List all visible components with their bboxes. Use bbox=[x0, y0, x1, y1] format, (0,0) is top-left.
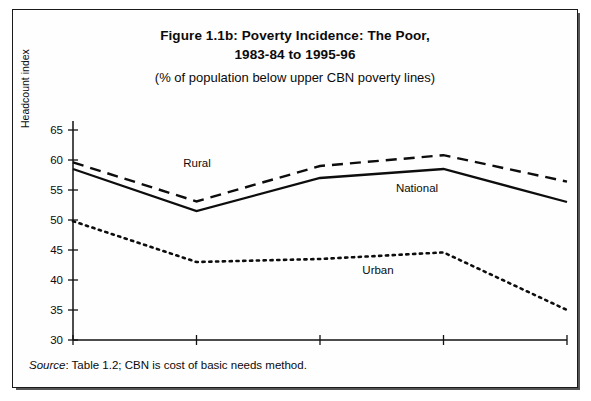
series-label-urban: Urban bbox=[362, 264, 393, 276]
y-tick-label: 30 bbox=[50, 334, 63, 346]
source-note: Source: Table 1.2; CBN is cost of basic … bbox=[29, 359, 307, 371]
figure-frame: Figure 1.1b: Poverty Incidence: The Poor… bbox=[12, 9, 578, 388]
y-tick-label: 45 bbox=[50, 244, 63, 256]
series-line-national bbox=[73, 169, 567, 211]
y-tick-label: 35 bbox=[50, 304, 63, 316]
y-tick-label: 50 bbox=[50, 214, 63, 226]
figure-title-line-2: 1983-84 to 1995-96 bbox=[13, 45, 577, 64]
series-label-national: National bbox=[396, 182, 438, 194]
x-axis: 1983-841985-861988-891991-921995-96 bbox=[52, 335, 579, 350]
figure-title-line-1: Figure 1.1b: Poverty Incidence: The Poor… bbox=[13, 26, 577, 45]
line-chart: 3035404550556065 1983-841985-861988-8919… bbox=[13, 110, 579, 350]
source-text: : Table 1.2; CBN is cost of basic needs … bbox=[65, 359, 306, 371]
y-tick-label: 65 bbox=[50, 124, 63, 136]
chart-series-group bbox=[73, 155, 567, 310]
y-tick-label: 55 bbox=[50, 184, 63, 196]
series-line-urban bbox=[73, 221, 567, 310]
series-label-rural: Rural bbox=[183, 157, 210, 169]
y-axis: 3035404550556065 bbox=[50, 121, 78, 346]
y-tick-label: 60 bbox=[50, 154, 63, 166]
y-tick-label: 40 bbox=[50, 274, 63, 286]
chart-plot-area: 3035404550556065 1983-841985-861988-8919… bbox=[13, 110, 579, 350]
figure-title-block: Figure 1.1b: Poverty Incidence: The Poor… bbox=[13, 26, 577, 88]
source-label: Source bbox=[29, 359, 65, 371]
figure-subtitle: (% of population below upper CBN poverty… bbox=[13, 68, 577, 88]
